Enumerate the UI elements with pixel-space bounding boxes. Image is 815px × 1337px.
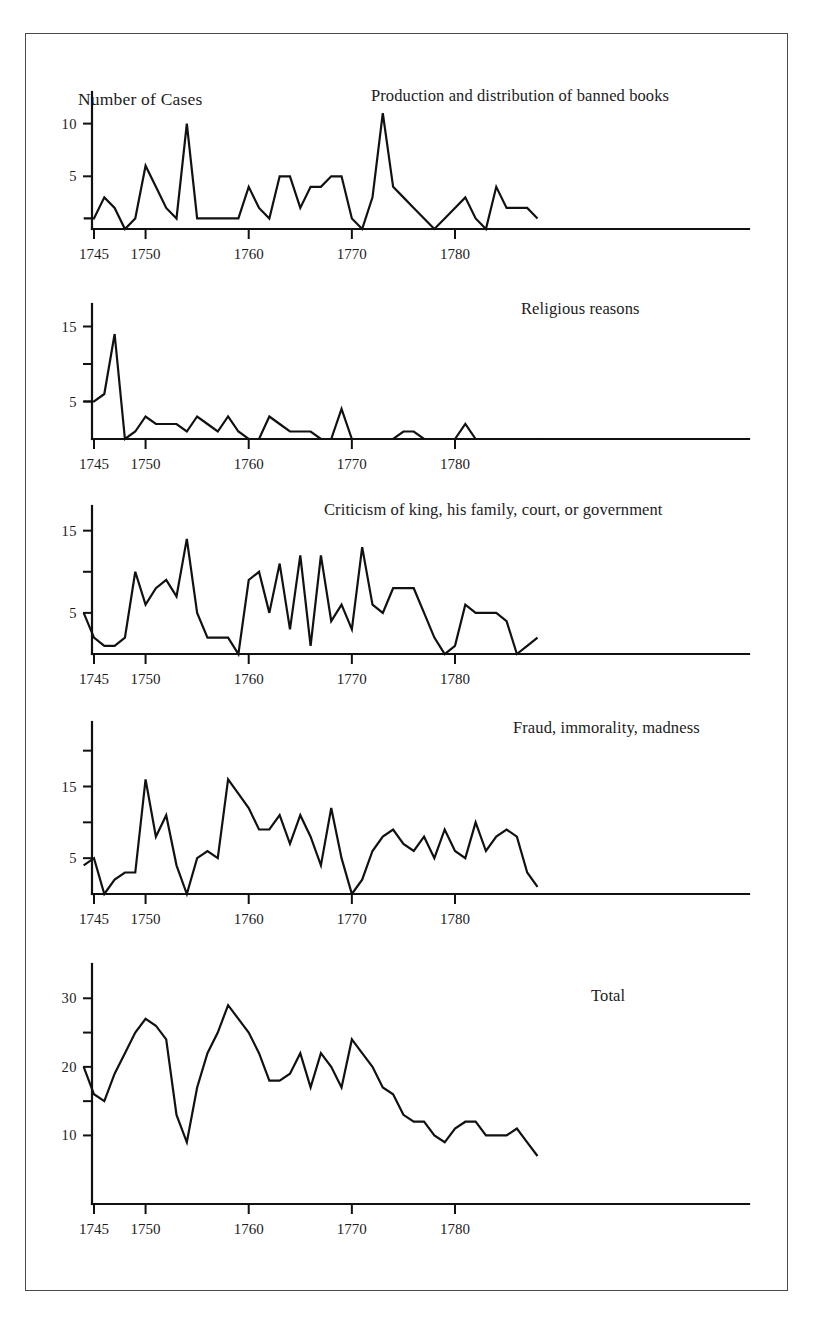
x-tick-label: 1750 bbox=[131, 1221, 161, 1237]
series-line bbox=[84, 334, 538, 439]
y-tick-label: 10 bbox=[62, 116, 78, 132]
x-tick-label: 1760 bbox=[234, 911, 264, 927]
chart-svg: 51017451750176017701780 bbox=[26, 34, 789, 275]
x-tick-label: 1780 bbox=[440, 1221, 470, 1237]
panel-title-banned-books: Production and distribution of banned bo… bbox=[371, 86, 669, 106]
x-tick-label: 1760 bbox=[234, 1221, 264, 1237]
x-tick-label: 1760 bbox=[234, 246, 264, 262]
y-tick-label: 5 bbox=[69, 850, 77, 866]
series-line bbox=[84, 539, 538, 654]
figure-frame: Number of Cases 51017451750176017701780 … bbox=[25, 33, 788, 1291]
y-tick-label: 5 bbox=[69, 168, 77, 184]
series-line bbox=[84, 779, 538, 894]
x-tick-label: 1770 bbox=[337, 246, 367, 262]
panel-total: 10203017451750176017701780 bbox=[26, 934, 789, 1250]
y-tick-label: 10 bbox=[62, 1127, 78, 1143]
y-tick-label: 5 bbox=[69, 605, 77, 621]
chart-svg: 10203017451750176017701780 bbox=[26, 934, 789, 1250]
x-tick-label: 1750 bbox=[131, 246, 161, 262]
y-tick-label: 15 bbox=[62, 779, 78, 795]
series-line bbox=[84, 113, 538, 229]
y-tick-label: 5 bbox=[69, 394, 77, 410]
panel-religious-reasons: 51517451750176017701780 bbox=[26, 264, 789, 485]
x-tick-label: 1770 bbox=[337, 1221, 367, 1237]
page-bleed-text bbox=[430, 0, 790, 20]
x-tick-label: 1780 bbox=[440, 911, 470, 927]
chart-svg: 51517451750176017701780 bbox=[26, 264, 789, 485]
panel-title-fraud: Fraud, immorality, madness bbox=[513, 718, 700, 738]
panel-title-religious-reasons: Religious reasons bbox=[521, 299, 640, 319]
panel-title-criticism-of-king: Criticism of king, his family, court, or… bbox=[324, 500, 663, 520]
y-tick-label: 30 bbox=[62, 990, 78, 1006]
x-tick-label: 1745 bbox=[79, 911, 109, 927]
panel-banned-books: 51017451750176017701780 bbox=[26, 34, 789, 275]
series-line bbox=[84, 1005, 538, 1156]
y-tick-label: 15 bbox=[62, 523, 78, 539]
x-tick-label: 1770 bbox=[337, 911, 367, 927]
y-tick-label: 15 bbox=[62, 319, 78, 335]
x-tick-label: 1745 bbox=[79, 1221, 109, 1237]
x-tick-label: 1780 bbox=[440, 246, 470, 262]
panel-title-total: Total bbox=[591, 986, 625, 1006]
x-tick-label: 1750 bbox=[131, 911, 161, 927]
y-tick-label: 20 bbox=[62, 1059, 78, 1075]
x-tick-label: 1745 bbox=[79, 246, 109, 262]
